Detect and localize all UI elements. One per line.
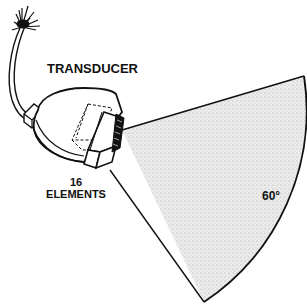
angle-label: 60° [262, 189, 280, 203]
elements-label: ELEMENTS [46, 188, 106, 200]
elements-count-label: 16 [70, 176, 82, 188]
cable [9, 26, 30, 120]
cable-frayed-end-icon [12, 6, 40, 30]
transducer-label: TRANSDUCER [47, 61, 139, 76]
transducer-diagram: TRANSDUCER 16 ELEMENTS 60° [0, 0, 307, 306]
